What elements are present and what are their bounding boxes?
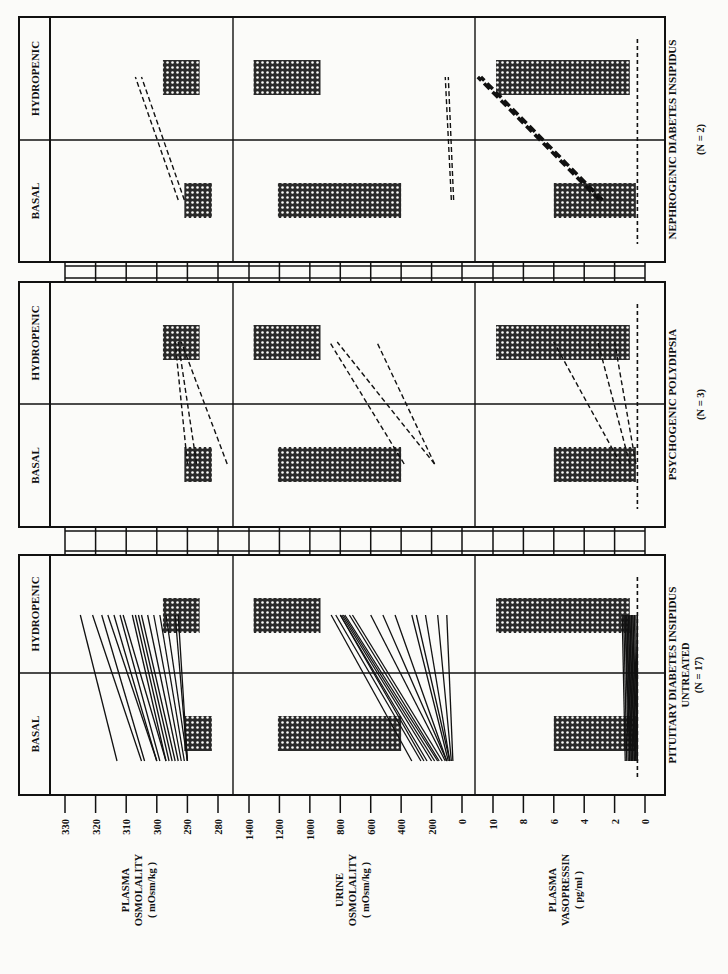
phase-label-basal: BASAL [29,447,41,484]
axis-title-line: ( mOsm/kg ) [360,862,372,919]
normal-range-bar-basal [554,716,636,751]
axis-tick-label: 200 [427,819,438,835]
axis-tick-label: 600 [366,819,377,835]
panel-frames [19,17,665,795]
axis-tick-label: 4 [579,818,590,824]
group-label-subtitle: UNTREATED [680,642,691,708]
patient-line [554,342,621,464]
phase-label-basal: BASAL [29,183,41,220]
phase-label-hydropenic: HYDROPENIC [29,305,41,380]
axis-tick-label: 1400 [244,819,255,840]
axis-title-line: PLASMA [120,867,131,912]
patient-line [377,342,435,464]
axis-tick-label: 800 [335,819,346,835]
patient-line [135,77,178,200]
axis-tick-label: 8 [518,819,529,824]
axis-title-line: PLASMA [547,867,558,912]
normal-range-bar-hydropenic [163,60,200,95]
normal-range-bar-basal [278,716,401,751]
group-label-title: PITUITARY DIABETES INSIPIDUS [666,587,678,764]
group-label-n_label: (N = 2) [695,123,707,155]
axis-tick-label: 310 [121,819,132,835]
normal-range-bar-basal [278,447,401,482]
normal-range-bar-basal [184,716,212,751]
patient-line [181,342,227,464]
patient-line [598,342,630,464]
axis-tick-label: 1200 [274,819,285,840]
normal-range-bar-hydropenic [496,60,630,95]
axis-title-line: ( mOsm/kg ) [146,862,158,919]
patient-line [102,615,145,761]
group-label-title: NEPHROGENIC DIABETES INSIPIDUS [666,40,678,240]
axis-tick-label: 330 [60,819,71,835]
normal-range-bar-hydropenic [254,325,321,360]
group-label-n_label: (N = 3) [695,388,707,420]
axis-tick-label: 6 [549,819,560,824]
patient-lines [80,39,637,777]
patient-line [445,77,451,200]
patient-line [142,77,185,200]
axis-tick-label: 0 [457,819,468,824]
phase-label-hydropenic: HYDROPENIC [29,41,41,116]
phase-label-hydropenic: HYDROPENIC [29,576,41,651]
patient-line [330,342,405,464]
axis-tick-label: 0 [640,819,651,824]
patient-line [178,615,187,761]
patient-line [93,615,142,761]
phase-label-basal: BASAL [29,716,41,753]
group-label-title: PSYCHOGENIC POLYDIPSIA [666,329,678,481]
axis-tick-label: 400 [396,819,407,835]
normal-range-bar-hydropenic [254,60,321,95]
axis-tick-label: 1000 [305,819,316,840]
normal-range-bar-basal [278,183,401,218]
patient-line [80,615,117,761]
patient-line [478,77,600,200]
clinical-chart-figure: 3303203103002902801400120010008006004002… [0,0,728,974]
normal-range-bar-basal [554,447,636,482]
axis-title-line: URINE [334,873,345,907]
axis-tick-label: 320 [91,819,102,835]
chart-canvas: 3303203103002902801400120010008006004002… [0,0,728,974]
patient-line [412,615,449,761]
text-labels: HYDROPENICBASALNEPHROGENIC DIABETES INSI… [29,40,708,927]
axis-tick-label: 290 [182,819,193,835]
axis-tick-label: 2 [610,819,621,824]
axis-title-line: OSMOLALITY [133,853,144,926]
axis-title-line: ( pg/ml ) [573,871,585,909]
patient-line [178,342,196,464]
normal-range-bar-hydropenic [496,598,630,633]
normal-range-bar-hydropenic [496,325,630,360]
normal-range-bar-basal [554,183,636,218]
normal-range-bar-hydropenic [254,598,321,633]
patient-line [481,77,603,200]
axis-title-line: OSMOLALITY [347,853,358,926]
axis-title-line: VASOPRESSIN [560,854,571,927]
patient-line [123,615,166,761]
axis-tick-label: 280 [213,819,224,835]
axis-tick-label: 300 [152,819,163,835]
normal-range-bar-basal [184,447,212,482]
normal-range-bar-basal [184,183,212,218]
patient-line [114,615,157,761]
axis-tick-label: 10 [488,819,499,830]
group-label-n_label: (N = 17) [693,656,705,693]
